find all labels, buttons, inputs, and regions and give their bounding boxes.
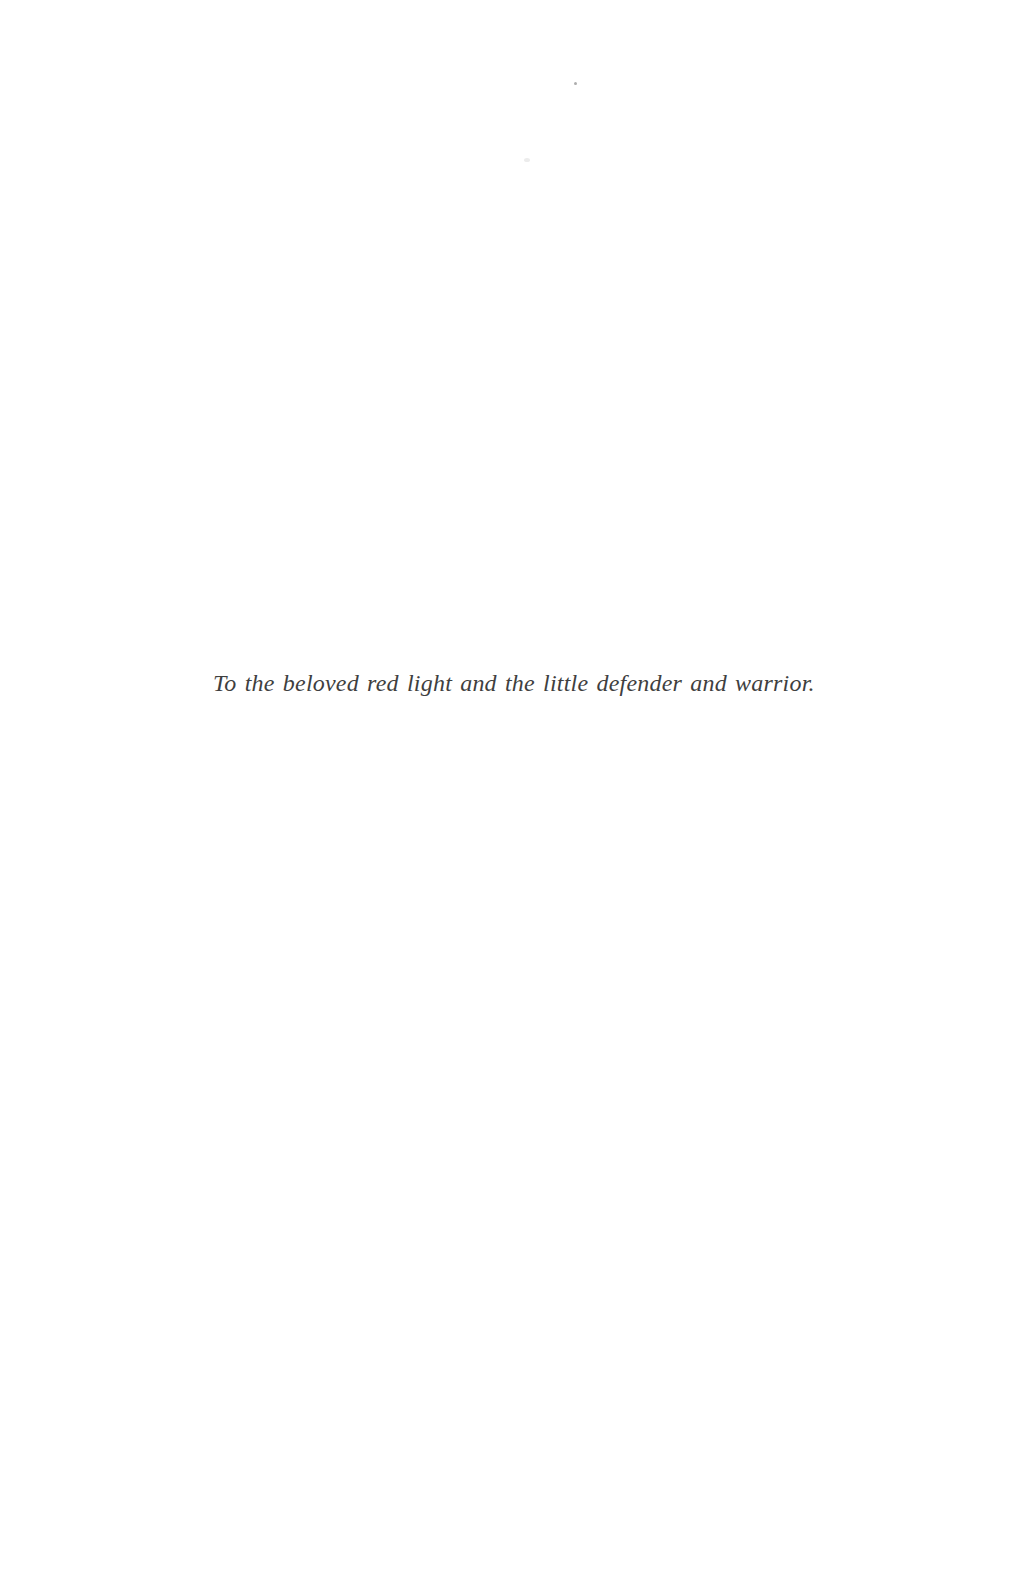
print-smudge — [524, 158, 530, 162]
print-speck — [574, 82, 577, 85]
dedication-page: To the beloved red light and the little … — [0, 0, 1017, 1571]
dedication-text: To the beloved red light and the little … — [213, 668, 833, 699]
